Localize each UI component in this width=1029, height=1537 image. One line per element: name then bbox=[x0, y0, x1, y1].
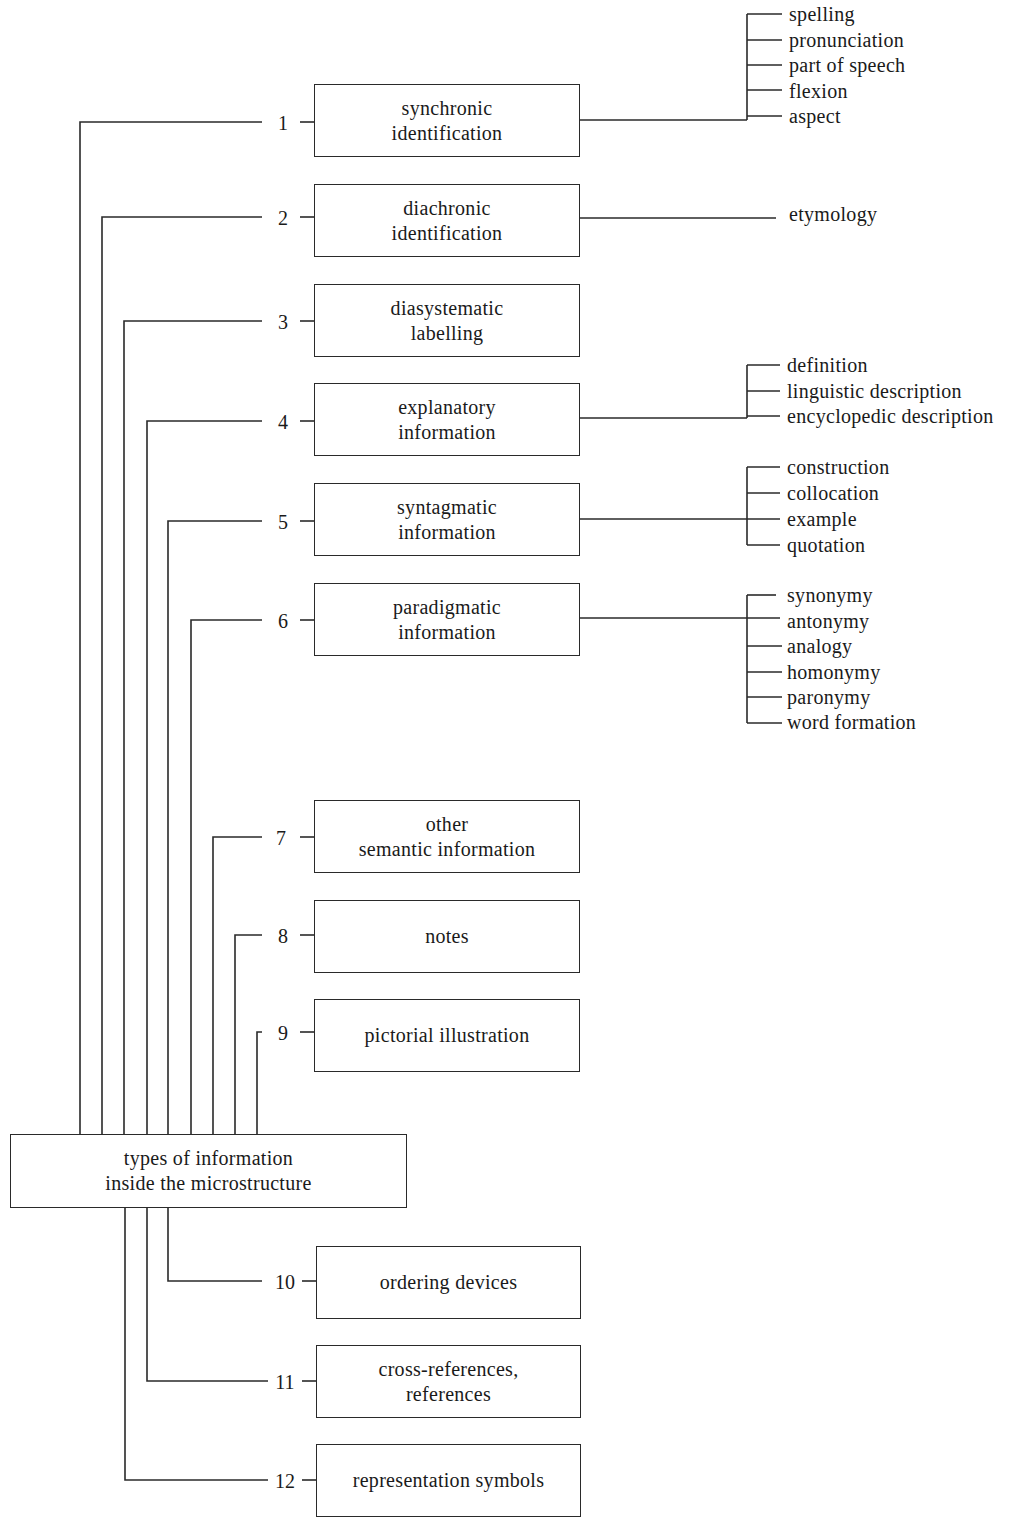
leaf-definition: definition bbox=[787, 355, 868, 375]
leaf-pronunciation: pronunciation bbox=[789, 30, 904, 50]
leaf-construction: construction bbox=[787, 457, 889, 477]
node-number-5: 5 bbox=[268, 512, 298, 532]
leaf-example: example bbox=[787, 509, 857, 529]
node-number-7: 7 bbox=[266, 828, 296, 848]
leaf-paronymy: paronymy bbox=[787, 687, 871, 707]
node-paradigmatic-information: paradigmatic information bbox=[314, 583, 580, 656]
leaf-linguistic-description: linguistic description bbox=[787, 381, 962, 401]
leaf-flexion: flexion bbox=[789, 81, 848, 101]
node-number-4: 4 bbox=[268, 412, 298, 432]
node-other-semantic-information: other semantic information bbox=[314, 800, 580, 873]
node-representation-symbols: representation symbols bbox=[316, 1444, 581, 1517]
node-number-9: 9 bbox=[268, 1023, 298, 1043]
leaf-antonymy: antonymy bbox=[787, 611, 869, 631]
node-explanatory-information: explanatory information bbox=[314, 383, 580, 456]
node-number-3: 3 bbox=[268, 312, 298, 332]
node-syntagmatic-information: syntagmatic information bbox=[314, 483, 580, 556]
leaf-spelling: spelling bbox=[789, 4, 855, 24]
node-number-8: 8 bbox=[268, 926, 298, 946]
leaf-etymology: etymology bbox=[789, 204, 877, 224]
leaf-analogy: analogy bbox=[787, 636, 852, 656]
leaf-synonymy: synonymy bbox=[787, 585, 873, 605]
node-number-6: 6 bbox=[268, 611, 298, 631]
node-ordering-devices: ordering devices bbox=[316, 1246, 581, 1319]
node-diasystematic-labelling: diasystematic labelling bbox=[314, 284, 580, 357]
node-notes: notes bbox=[314, 900, 580, 973]
node-number-10: 10 bbox=[270, 1272, 300, 1292]
node-number-1: 1 bbox=[268, 113, 298, 133]
node-pictorial-illustration: pictorial illustration bbox=[314, 999, 580, 1072]
leaf-quotation: quotation bbox=[787, 535, 865, 555]
leaf-encyclopedic-description: encyclopedic description bbox=[787, 406, 994, 426]
node-synchronic-identification: synchronic identification bbox=[314, 84, 580, 157]
node-diachronic-identification: diachronic identification bbox=[314, 184, 580, 257]
node-cross-references: cross-references, references bbox=[316, 1345, 581, 1418]
node-number-2: 2 bbox=[268, 208, 298, 228]
node-number-11: 11 bbox=[270, 1372, 300, 1392]
leaf-collocation: collocation bbox=[787, 483, 879, 503]
node-number-12: 12 bbox=[270, 1471, 300, 1491]
root-types-of-information: types of information inside the microstr… bbox=[10, 1134, 407, 1208]
leaf-homonymy: homonymy bbox=[787, 662, 881, 682]
leaf-word-formation: word formation bbox=[787, 712, 916, 732]
leaf-part-of-speech: part of speech bbox=[789, 55, 905, 75]
leaf-aspect: aspect bbox=[789, 106, 841, 126]
